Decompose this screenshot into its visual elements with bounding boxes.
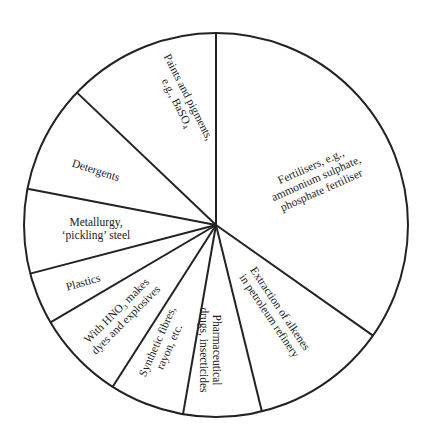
slice-label-pharma: Pharmaceuticaldrugs, insecticides xyxy=(197,308,223,393)
pie-chart: Paints and pigments,e.g., BaSO₄Detergent… xyxy=(0,0,426,427)
slice-label-metallurgy: Metallurgy,‘pickling’ steel xyxy=(62,216,130,242)
